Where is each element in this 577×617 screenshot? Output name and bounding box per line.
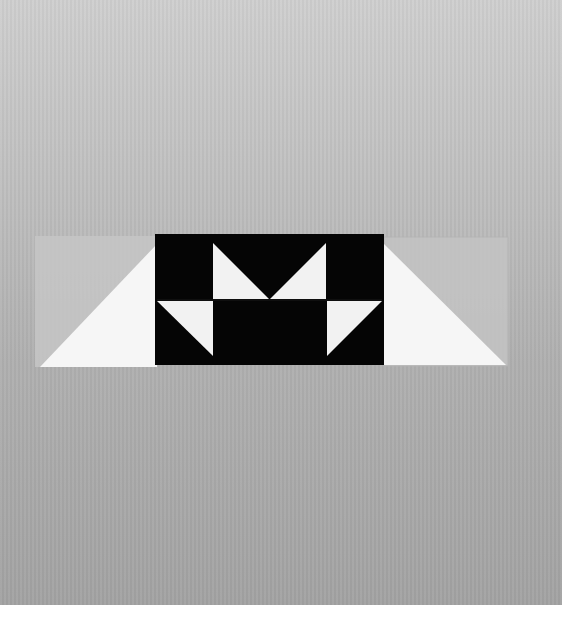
quilt-block: [0, 0, 577, 617]
